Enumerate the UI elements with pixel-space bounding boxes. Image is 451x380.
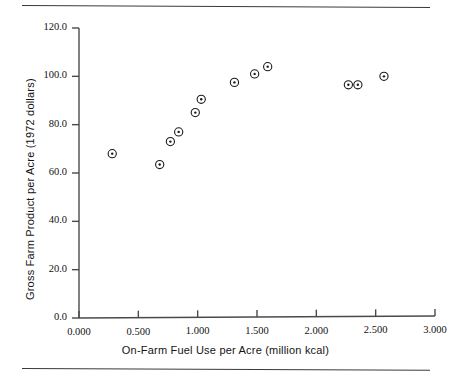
data-point bbox=[191, 108, 199, 116]
data-point bbox=[175, 128, 183, 136]
data-point-center-dot bbox=[111, 152, 113, 154]
data-point bbox=[264, 63, 272, 71]
data-point bbox=[108, 150, 116, 158]
data-point bbox=[380, 72, 388, 80]
y-axis-tick-label: 20.0 bbox=[7, 263, 67, 274]
y-axis-tick-label: 40.0 bbox=[7, 214, 67, 225]
data-point-center-dot bbox=[357, 84, 359, 86]
y-axis-tick-label: 120.0 bbox=[7, 21, 67, 32]
data-point-center-dot bbox=[253, 73, 255, 75]
data-point bbox=[344, 81, 352, 89]
data-point-center-dot bbox=[177, 131, 179, 133]
data-point-layer bbox=[108, 63, 388, 169]
data-point bbox=[354, 81, 362, 89]
data-point bbox=[230, 78, 238, 86]
data-point bbox=[251, 70, 259, 78]
y-axis-tick-label: 0.0 bbox=[7, 311, 67, 322]
data-point-center-dot bbox=[347, 84, 349, 86]
figure-container: On-Farm Fuel Use per Acre (million kcal)… bbox=[0, 0, 451, 380]
x-axis-tick-label: 2.500 bbox=[346, 324, 406, 335]
data-point bbox=[156, 160, 164, 168]
x-axis-tick-label: 1.000 bbox=[168, 325, 228, 336]
data-point bbox=[197, 95, 205, 103]
scatter-plot bbox=[0, 0, 451, 380]
data-point-center-dot bbox=[266, 65, 268, 67]
x-axis-title: On-Farm Fuel Use per Acre (million kcal) bbox=[0, 344, 451, 356]
data-point-center-dot bbox=[194, 111, 196, 113]
data-point-center-dot bbox=[158, 163, 160, 165]
x-axis-tick-label: 2.000 bbox=[286, 325, 346, 336]
data-point-center-dot bbox=[233, 81, 235, 83]
data-point-center-dot bbox=[200, 98, 202, 100]
x-axis-tick-label: 0.000 bbox=[49, 326, 109, 337]
x-axis-tick-label: 3.000 bbox=[405, 324, 451, 335]
y-axis-tick-label: 60.0 bbox=[7, 166, 67, 177]
data-point-center-dot bbox=[383, 75, 385, 77]
y-axis-tick-label: 80.0 bbox=[7, 118, 67, 129]
data-point bbox=[166, 137, 174, 145]
x-axis-tick-label: 0.500 bbox=[108, 326, 168, 337]
data-point-center-dot bbox=[169, 140, 171, 142]
x-axis-tick-label: 1.500 bbox=[227, 325, 287, 336]
y-axis-tick-label: 100.0 bbox=[7, 69, 67, 80]
